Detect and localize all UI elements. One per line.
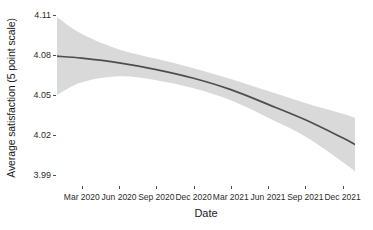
x-tick-mark <box>231 186 232 189</box>
x-tick-label: Jun 2020 <box>102 192 137 202</box>
x-tick-mark <box>343 186 344 189</box>
x-tick-mark <box>156 186 157 189</box>
x-tick-label: Sep 2021 <box>287 192 323 202</box>
x-tick-mark <box>268 186 269 189</box>
satisfaction-trend-chart: Average satisfaction (5 point scale) 4.1… <box>0 0 373 230</box>
plot-svg <box>57 8 355 186</box>
plot-panel <box>57 8 355 186</box>
x-tick-label: Dec 2020 <box>175 192 211 202</box>
x-tick-mark <box>305 186 306 189</box>
x-tick-label: Jun 2021 <box>251 192 286 202</box>
x-tick-label: Sep 2020 <box>138 192 174 202</box>
x-tick-mark <box>119 186 120 189</box>
x-tick-mark <box>194 186 195 189</box>
confidence-ribbon <box>57 17 355 171</box>
x-tick-label: Mar 2021 <box>213 192 249 202</box>
x-tick-label: Mar 2020 <box>64 192 100 202</box>
x-tick-label: Dec 2021 <box>324 192 360 202</box>
x-axis-title: Date <box>57 207 355 219</box>
x-tick-mark <box>82 186 83 189</box>
